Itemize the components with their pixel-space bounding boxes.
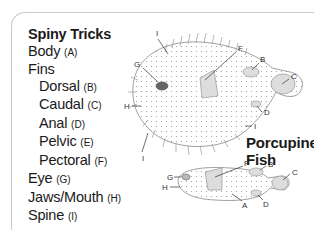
svg-text:G: G [134,60,140,69]
fish-caption: Porcupine Fish [246,134,314,168]
svg-text:C: C [292,168,298,177]
porcupine-fish-illustration: I G F B C H D I I F B C [0,0,314,230]
svg-text:F: F [238,44,243,53]
caption-line-2: Fish [246,151,314,168]
svg-text:D: D [264,108,270,117]
svg-text:B: B [260,55,265,64]
svg-text:A: A [242,201,248,210]
svg-text:G: G [167,173,173,182]
svg-text:D: D [263,200,269,209]
caption-line-1: Porcupine [246,134,314,151]
svg-text:I: I [156,29,158,38]
svg-text:C: C [291,72,297,81]
svg-text:H: H [162,183,168,192]
svg-text:I: I [142,154,144,163]
svg-text:H: H [124,102,130,111]
svg-text:I: I [254,122,256,131]
